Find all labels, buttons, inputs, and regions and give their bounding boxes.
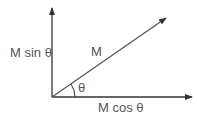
angle-arc: [71, 84, 75, 97]
vertical-component-label: M sin θ: [10, 45, 52, 60]
horizontal-component-label: M cos θ: [98, 100, 144, 115]
angle-label: θ: [78, 80, 85, 95]
vector-label: M: [91, 44, 102, 59]
vector-m-arrow: [52, 18, 166, 97]
vector-diagram: M sin θ M θ M cos θ: [0, 0, 197, 119]
